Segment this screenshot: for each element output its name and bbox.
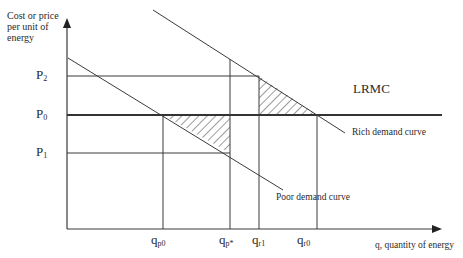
- quantity-label-qp-star: qp*: [219, 232, 234, 248]
- poor-hatched-area: [163, 115, 230, 153]
- price-label-p2: P2: [36, 67, 47, 83]
- lrmc-label: LRMC: [353, 81, 390, 97]
- quantity-label-qr0: qr0: [297, 232, 310, 248]
- economics-diagram: Cost or price per unit of energy P2 P0 P…: [0, 0, 463, 258]
- rich-demand-label: Rich demand curve: [352, 127, 426, 137]
- x-axis-arrow-icon: [432, 225, 442, 233]
- poor-demand-curve: [68, 58, 283, 190]
- y-axis-label: Cost or price per unit of energy: [7, 10, 65, 43]
- quantity-label-qp0: qp0: [151, 232, 166, 248]
- price-label-p0: P0: [36, 106, 47, 122]
- poor-demand-label: Poor demand curve: [276, 192, 350, 202]
- quantity-label-qr1: qr1: [252, 232, 265, 248]
- x-axis-label: q, quantity of energy: [375, 240, 454, 250]
- price-label-p1: P1: [36, 144, 47, 160]
